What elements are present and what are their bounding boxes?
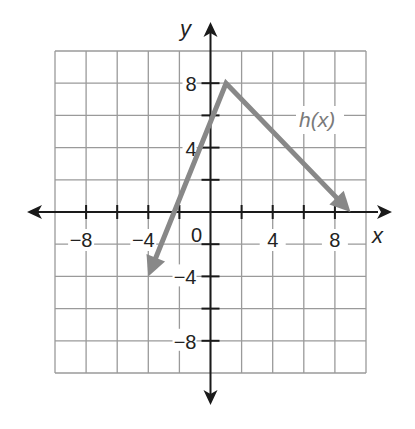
y-axis-label: y [178, 16, 193, 41]
coordinate-plane: −8−44884−4−8 xyh(x)0 [0, 0, 415, 429]
y-tick-label: −8 [174, 331, 197, 353]
x-tick-label: −4 [132, 229, 155, 251]
x-tick-label: −8 [70, 229, 93, 251]
x-tick-label: 8 [329, 229, 340, 251]
origin-label: 0 [191, 224, 202, 246]
series-label-h-of-x: h(x) [299, 108, 335, 131]
axes [27, 22, 392, 405]
x-axis-label: x [371, 223, 384, 248]
y-tick-label: 8 [185, 73, 196, 95]
y-tick-label: −4 [174, 266, 197, 288]
x-axis-right-arrow-icon [377, 205, 392, 219]
x-tick-label: 4 [267, 229, 278, 251]
